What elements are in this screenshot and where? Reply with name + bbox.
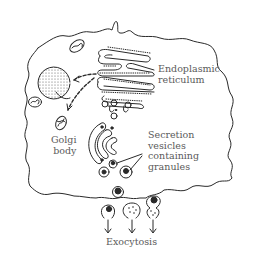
nucleus bbox=[38, 67, 70, 99]
label-secretion-vesicles: Secretion vesicles containing granules bbox=[148, 130, 199, 172]
label-pointer bbox=[117, 154, 142, 163]
mitochondrion bbox=[54, 115, 69, 132]
label-line: containing bbox=[148, 151, 199, 162]
label-exocytosis: Exocytosis bbox=[106, 237, 157, 248]
exocytosis-arrows bbox=[105, 220, 156, 233]
label-line: Golgi bbox=[51, 135, 76, 146]
cell-secretion-diagram: Endoplasmic reticulum Golgi body Secreti… bbox=[0, 0, 254, 260]
label-endoplasmic-reticulum: Endoplasmic reticulum bbox=[158, 64, 220, 85]
label-line: Endoplasmic bbox=[158, 64, 220, 75]
label-line: reticulum bbox=[158, 75, 220, 86]
secretion-vesicles bbox=[99, 160, 132, 198]
mitochondrion bbox=[29, 97, 42, 107]
label-line: granules bbox=[148, 162, 199, 173]
cell-illustration bbox=[0, 0, 254, 260]
label-line: Secretion bbox=[148, 130, 199, 141]
transport-arrows bbox=[67, 74, 96, 110]
label-line: body bbox=[51, 146, 76, 157]
transport-vesicles bbox=[102, 100, 131, 119]
label-golgi-body: Golgi body bbox=[51, 135, 76, 156]
exocytosis-vesicles bbox=[101, 196, 160, 218]
mitochondrion bbox=[68, 37, 87, 54]
cell-membrane bbox=[25, 21, 233, 198]
golgi-body bbox=[89, 123, 117, 164]
